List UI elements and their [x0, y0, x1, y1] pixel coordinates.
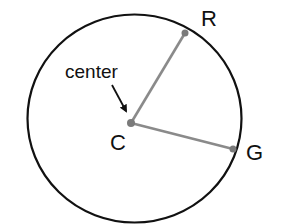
radius-cg [131, 123, 233, 149]
center-pointer-arrow [112, 85, 126, 111]
point-r [182, 30, 189, 37]
point-g [230, 146, 237, 153]
point-c-label: C [110, 130, 126, 155]
center-point [127, 119, 135, 127]
point-r-label: R [201, 6, 217, 31]
point-g-label: G [246, 140, 263, 165]
center-annotation-label: center [65, 61, 118, 82]
radius-cr [131, 33, 185, 123]
circle-diagram: center C R G [0, 0, 288, 224]
